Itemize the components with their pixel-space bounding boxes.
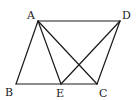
segment-DE <box>61 21 120 84</box>
parallelogram-diagram: A D B E C <box>0 0 139 100</box>
geometry-figure: A D B E C <box>0 0 139 100</box>
vertex-labels: A D B E C <box>5 9 131 100</box>
segment-AB <box>16 21 38 84</box>
label-C: C <box>99 87 107 100</box>
label-B: B <box>5 86 13 99</box>
label-E: E <box>56 87 64 100</box>
segments <box>16 21 120 84</box>
label-D: D <box>122 9 131 22</box>
label-A: A <box>26 9 36 22</box>
segment-AE <box>38 21 61 84</box>
segment-AC <box>38 21 97 84</box>
segment-DC <box>97 21 120 84</box>
